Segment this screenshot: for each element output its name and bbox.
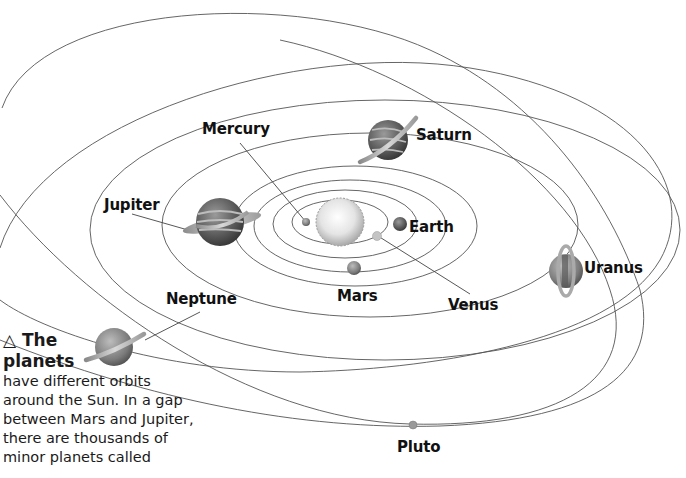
caption-line: around the Sun. In a gap xyxy=(3,391,253,410)
label-saturn: Saturn xyxy=(416,126,472,144)
caption-title: △ Theplanets xyxy=(3,330,253,372)
planet-venus xyxy=(373,232,382,241)
planet-jupiter xyxy=(181,198,262,246)
label-earth: Earth xyxy=(409,218,454,236)
label-pluto: Pluto xyxy=(397,438,440,456)
planet-saturn xyxy=(360,118,416,162)
planet-mars xyxy=(347,261,361,275)
caption-title-line1: The xyxy=(22,330,57,350)
caption-line: there are thousands of xyxy=(3,429,253,448)
sun xyxy=(316,198,364,246)
leader-lines xyxy=(132,143,470,340)
caption-line: have different orbits xyxy=(3,372,253,391)
label-mercury: Mercury xyxy=(202,120,270,138)
caption-title-line2: planets xyxy=(3,351,74,371)
planet-mercury xyxy=(302,218,310,226)
label-neptune: Neptune xyxy=(166,290,237,308)
caption-line: minor planets called xyxy=(3,448,253,467)
label-venus: Venus xyxy=(448,296,498,314)
planet-earth xyxy=(393,217,407,231)
planet-uranus xyxy=(549,246,583,296)
caption-line: between Mars and Jupiter, xyxy=(3,410,253,429)
planet-pluto xyxy=(409,421,417,429)
label-mars: Mars xyxy=(337,287,378,305)
caption: △ Theplanets have different orbits aroun… xyxy=(3,330,253,467)
label-uranus: Uranus xyxy=(584,259,643,277)
triangle-icon: △ xyxy=(3,330,16,350)
label-jupiter: Jupiter xyxy=(104,196,159,214)
